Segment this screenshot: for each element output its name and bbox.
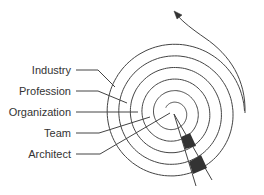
connector-industry <box>76 70 115 87</box>
spiral-line <box>107 44 244 176</box>
label-industry: Industry <box>32 64 71 76</box>
wedge-segment-inner <box>181 133 196 149</box>
spiral-svg <box>0 0 264 195</box>
arrowhead-icon <box>174 11 182 19</box>
spiral-diagram: Industry Profession Organization Team Ar… <box>0 0 264 195</box>
label-team: Team <box>44 127 71 139</box>
spiral-tail-arrow-line <box>177 15 245 113</box>
label-organization: Organization <box>9 106 71 118</box>
label-profession: Profession <box>19 85 71 97</box>
label-architect: Architect <box>28 148 71 160</box>
connector-team <box>76 117 150 133</box>
